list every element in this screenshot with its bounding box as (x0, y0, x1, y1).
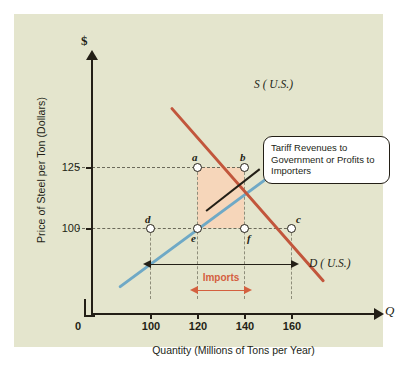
y-axis-line (91, 58, 93, 314)
point-c[interactable] (287, 224, 296, 233)
price-guide-100 (77, 228, 292, 229)
imports-label: Imports (180, 272, 262, 283)
y-axis-title: Price of Steel per Ton (Dollars) (35, 75, 47, 265)
x-tick-label-160: 160 (277, 320, 307, 332)
point-e-label: e (191, 232, 196, 244)
imports-arrow-line (198, 290, 244, 292)
y-axis-symbol: $ (81, 33, 88, 49)
y-tick-label-100: 100 (46, 222, 80, 234)
range-arrow-line (151, 264, 291, 266)
point-a-label: a (192, 151, 198, 163)
range-arrow-head-left (143, 260, 151, 268)
y-tick-mark-100 (86, 228, 92, 230)
point-a[interactable] (193, 163, 202, 172)
point-b-label: b (240, 151, 246, 163)
range-arrow-head-right (291, 260, 299, 268)
chart-panel: S ( U.S.) D ( U.S.) Tariff Revenues to G… (14, 14, 383, 347)
x-axis-arrow-icon (374, 308, 384, 320)
x-tick-mark-100 (150, 313, 152, 319)
point-f-label: f (247, 232, 251, 244)
point-d-label: d (145, 213, 151, 225)
supply-curve-label: S ( U.S.) (254, 78, 293, 90)
tariff-revenue-callout: Tariff Revenues to Government or Profits… (263, 136, 390, 184)
imports-arrow-head-left (190, 286, 198, 294)
point-c-label: c (296, 213, 301, 225)
x-tick-mark-120 (197, 313, 199, 319)
point-b[interactable] (240, 163, 249, 172)
y-tick-mark-125 (86, 167, 92, 169)
demand-curve-label: D ( U.S.) (309, 257, 351, 269)
demand-curve (170, 107, 325, 283)
y-tick-label-125: 125 (46, 161, 80, 173)
x-axis-symbol: Q (385, 303, 394, 319)
x-tick-mark-160 (291, 313, 293, 319)
x-axis-title: Quantity (Millions of Tons per Year) (91, 344, 376, 356)
x-tick-label-140: 140 (230, 320, 260, 332)
x-tick-label-120: 120 (183, 320, 213, 332)
axis-origin-corner (84, 299, 95, 317)
x-axis-line (91, 313, 376, 315)
x-tick-label-0: 0 (63, 320, 93, 332)
x-tick-mark-140 (244, 313, 246, 319)
price-guide-125 (77, 167, 245, 168)
imports-arrow-head-right (244, 286, 252, 294)
x-tick-label-100: 100 (136, 320, 166, 332)
y-axis-arrow-icon (86, 50, 98, 60)
tariff-supply-demand-figure: S ( U.S.) D ( U.S.) Tariff Revenues to G… (0, 0, 397, 369)
